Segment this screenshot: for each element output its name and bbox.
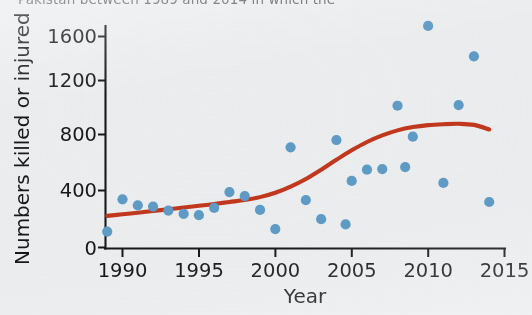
scatter-point: [133, 200, 143, 210]
scatter-point: [484, 197, 494, 207]
y-tick-label-400: 400: [60, 179, 97, 202]
scatter-point: [194, 210, 204, 220]
scatter-point: [438, 178, 448, 188]
scatter-point: [224, 187, 234, 197]
scatter-point: [331, 135, 341, 145]
scatter-plot-svg: Numbers killed or injured 1600 1200 800 …: [0, 0, 532, 315]
y-tick-label-800: 800: [60, 123, 97, 146]
x-axis-title: Year: [283, 284, 327, 308]
scatter-point: [240, 191, 250, 201]
x-tick-label-2005: 2005: [327, 259, 377, 282]
clipped-caption-text: Pakistan between 1989 and 2014 in which …: [18, 0, 518, 5]
x-tick-label-1995: 1995: [174, 259, 224, 282]
y-tick-label-1200: 1200: [47, 69, 97, 92]
scatter-point: [255, 205, 265, 215]
scatter-point: [209, 203, 219, 213]
scatter-point: [454, 100, 464, 110]
y-tick-label-1600: 1600: [47, 25, 97, 48]
scatter-point: [285, 142, 295, 152]
trend-line: [107, 124, 489, 216]
scatter-point: [400, 162, 410, 172]
x-tick-label-2000: 2000: [251, 259, 301, 282]
scatter-point: [469, 51, 479, 61]
x-tick-label-1990: 1990: [98, 259, 148, 282]
chart-figure: Numbers killed or injured 1600 1200 800 …: [0, 0, 532, 315]
x-tick-label-2010: 2010: [403, 259, 453, 282]
scatter-point: [408, 132, 418, 142]
scatter-point: [301, 195, 311, 205]
scatter-point: [163, 205, 173, 215]
scatter-point: [340, 219, 350, 229]
scatter-point: [316, 214, 326, 224]
y-tick-label-0: 0: [85, 237, 97, 260]
scatter-point: [347, 176, 357, 186]
scatter-point: [270, 224, 280, 234]
scatter-point: [102, 227, 112, 237]
y-axis-title: Numbers killed or injured: [10, 12, 34, 265]
scatter-point: [179, 209, 189, 219]
scatter-points-group: [102, 21, 494, 237]
scatter-point: [377, 164, 387, 174]
scatter-point: [392, 101, 402, 111]
scatter-point: [148, 202, 158, 212]
scatter-point: [423, 21, 433, 31]
x-tick-label-2015: 2015: [480, 259, 530, 282]
scatter-point: [117, 194, 127, 204]
scatter-point: [362, 165, 372, 175]
